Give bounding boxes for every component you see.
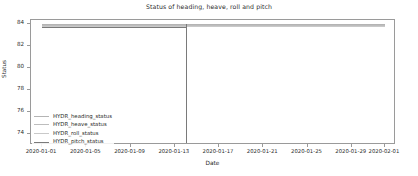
x-axis-tick-label: 2020-01-01 <box>26 148 57 154</box>
legend-item-label: HYDR_pitch_status <box>53 139 104 144</box>
x-axis-tick-label: 2020-01-17 <box>203 148 234 154</box>
y-axis-tick: 74 <box>0 133 30 134</box>
x-axis-tick-label: 2020-02-01 <box>369 148 400 154</box>
legend-item-label: HYDR_heave_status <box>53 122 107 127</box>
y-axis-tick: 84 <box>0 23 30 24</box>
legend-item[interactable]: HYDR_heading_status <box>34 112 112 121</box>
x-axis-tick-mark <box>262 144 263 147</box>
y-axis-tick-label: 84 <box>17 19 24 25</box>
y-axis-tick: 76 <box>0 111 30 112</box>
y-axis-tick-label: 80 <box>17 63 24 69</box>
x-axis-tick-label: 2020-01-05 <box>70 148 101 154</box>
chart-figure: Status of heading, heave, roll and pitch… <box>0 0 418 176</box>
y-axis-tick: 80 <box>0 67 30 68</box>
x-axis-tick-mark <box>384 144 385 147</box>
y-axis-tick: 82 <box>0 45 30 46</box>
series-segment <box>42 27 186 28</box>
x-axis-tick-label: 2020-01-29 <box>335 148 366 154</box>
legend-item-label: HYDR_roll_status <box>53 131 99 136</box>
x-axis-tick-label: 2020-01-09 <box>114 148 145 154</box>
x-axis-label: Date <box>30 160 395 166</box>
legend-item-label: HYDR_heading_status <box>53 114 112 119</box>
x-axis-tick-label: 2020-01-25 <box>291 148 322 154</box>
chart-legend: HYDR_heading_statusHYDR_heave_statusHYDR… <box>32 111 114 147</box>
x-axis-tick-mark <box>307 144 308 147</box>
y-axis-tick-label: 76 <box>17 107 24 113</box>
x-axis-tick-label: 2020-01-21 <box>247 148 278 154</box>
series-segment <box>186 24 187 142</box>
y-axis-label: Status <box>1 46 7 92</box>
legend-line-icon <box>34 142 49 143</box>
y-axis-tick: 78 <box>0 89 30 90</box>
y-axis-tick-label: 74 <box>17 129 24 135</box>
legend-item[interactable]: HYDR_roll_status <box>34 129 112 138</box>
legend-line-icon <box>34 124 49 125</box>
legend-line-icon <box>34 133 49 134</box>
chart-title: Status of heading, heave, roll and pitch <box>0 3 418 10</box>
x-axis-tick-mark <box>130 144 131 147</box>
legend-item[interactable]: HYDR_pitch_status <box>34 138 112 147</box>
legend-line-icon <box>34 116 49 117</box>
x-axis-tick-label: 2020-01-13 <box>158 148 189 154</box>
x-axis-tick-mark <box>218 144 219 147</box>
legend-item[interactable]: HYDR_heave_status <box>34 121 112 130</box>
x-axis-tick-mark <box>351 144 352 147</box>
y-axis-tick-label: 78 <box>17 85 24 91</box>
x-axis-tick-mark <box>174 144 175 147</box>
y-axis-tick-label: 82 <box>17 41 24 47</box>
